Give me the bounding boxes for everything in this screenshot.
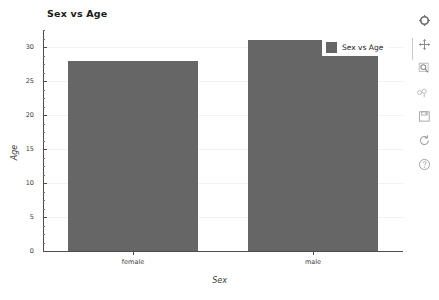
y-tick-minor [43, 200, 45, 201]
y-tick-minor [43, 73, 45, 74]
bar-female [68, 61, 198, 251]
y-tick-major [43, 115, 47, 116]
y-tick-minor [43, 56, 45, 57]
y-tick-minor [43, 166, 45, 167]
plot-area [43, 30, 403, 251]
x-tick-label-male: male [305, 258, 321, 266]
legend-swatch [326, 42, 337, 53]
y-tick-major [43, 183, 47, 184]
y-tick-label: 10 [26, 179, 34, 187]
x-tick-label-female: female [122, 258, 144, 266]
toolbar-divider [412, 38, 413, 60]
y-tick-minor [43, 124, 45, 125]
y-axis-label: Age [10, 133, 19, 173]
y-tick-minor [43, 158, 45, 159]
x-tick-mark [313, 251, 314, 255]
y-tick-major [43, 81, 47, 82]
y-tick-minor [43, 243, 45, 244]
y-tick-minor [43, 141, 45, 142]
zoom-icon[interactable] [414, 60, 434, 77]
y-tick-minor [43, 209, 45, 210]
help-icon[interactable] [414, 156, 434, 173]
home-icon[interactable] [414, 12, 434, 29]
y-tick-minor [43, 192, 45, 193]
y-tick-label: 30 [26, 43, 34, 51]
y-tick-label: 15 [26, 145, 34, 153]
y-tick-major [43, 149, 47, 150]
y-tick-minor [43, 226, 45, 227]
x-axis-label: Sex [0, 276, 439, 285]
save-icon[interactable] [414, 108, 434, 125]
move-icon[interactable] [414, 36, 434, 53]
y-tick-minor [43, 234, 45, 235]
chart-title: Sex vs Age [47, 8, 107, 19]
chart-legend: Sex vs Age [322, 39, 389, 56]
y-tick-minor [43, 175, 45, 176]
refresh-icon[interactable] [414, 132, 434, 149]
y-tick-minor [43, 39, 45, 40]
y-tick-label: 25 [26, 77, 34, 85]
subplots-icon[interactable] [414, 84, 434, 101]
x-tick-mark [133, 251, 134, 255]
y-tick-minor [43, 64, 45, 65]
y-tick-label: 20 [26, 111, 34, 119]
y-axis-ticks: 051015202530 [0, 30, 40, 252]
y-tick-major [43, 47, 47, 48]
y-tick-major [43, 217, 47, 218]
legend-label: Sex vs Age [342, 43, 383, 52]
chart-toolbar [411, 12, 437, 173]
y-tick-minor [43, 107, 45, 108]
chart-figure: Sex vs Age 051015202530 femalemale Age S… [0, 0, 439, 300]
y-tick-label: 5 [30, 213, 34, 221]
bar-male [248, 40, 378, 251]
y-tick-minor [43, 132, 45, 133]
y-tick-minor [43, 30, 45, 31]
y-tick-label: 0 [30, 247, 34, 255]
y-tick-minor [43, 90, 45, 91]
y-tick-minor [43, 98, 45, 99]
